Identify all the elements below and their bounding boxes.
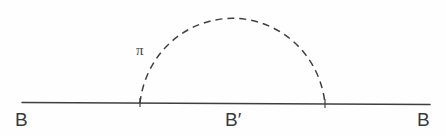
incoming-baryon-label: B	[15, 110, 28, 129]
figure-background	[0, 0, 446, 136]
pion-label: π	[136, 43, 144, 58]
outgoing-baryon-label: B	[417, 110, 430, 129]
intermediate-baryon-label: B′	[225, 110, 241, 129]
diagram-canvas	[0, 0, 446, 136]
feynman-diagram-figure: B B′ B π	[0, 0, 446, 136]
